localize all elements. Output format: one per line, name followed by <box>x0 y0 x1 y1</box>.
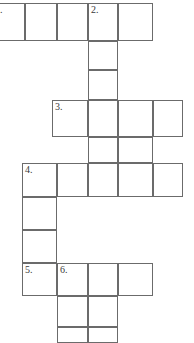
crossword-cell-r4c4[interactable] <box>88 100 118 137</box>
clue-number-1: 1. <box>0 4 3 15</box>
crossword-cell-r1c2[interactable] <box>25 3 57 41</box>
crossword-cell-r1c4[interactable]: 2. <box>88 3 118 41</box>
crossword-cell-r10c3[interactable] <box>57 296 88 327</box>
crossword-cell-r6c6[interactable] <box>153 163 183 197</box>
crossword-cell-r9c2[interactable]: 5. <box>22 263 57 296</box>
crossword-cell-r9c5[interactable] <box>118 263 153 296</box>
crossword-cell-r11c3[interactable] <box>57 327 88 343</box>
crossword-cell-r5c5[interactable] <box>118 137 153 163</box>
crossword-cell-r11c4[interactable] <box>88 327 118 343</box>
crossword-cell-r9c4[interactable] <box>88 263 118 296</box>
crossword-cell-r2c4[interactable] <box>88 41 118 70</box>
clue-number-4: 4. <box>25 164 33 175</box>
crossword-cell-r6c4[interactable] <box>88 163 118 197</box>
clue-number-5: 5. <box>25 264 33 275</box>
crossword-cell-r1c5[interactable] <box>118 3 153 41</box>
clue-number-3: 3. <box>55 101 63 112</box>
crossword-cell-r1c1[interactable]: 1. <box>0 3 25 41</box>
crossword-cell-r3c4[interactable] <box>88 70 118 100</box>
crossword-cell-r1c3[interactable] <box>57 3 88 41</box>
crossword-cell-r10c4[interactable] <box>88 296 118 327</box>
crossword-cell-r8c2[interactable] <box>22 230 57 263</box>
crossword-cell-r6c2[interactable]: 4. <box>22 163 57 197</box>
clue-number-2: 2. <box>91 4 99 15</box>
crossword-cell-r6c5[interactable] <box>118 163 153 197</box>
crossword-cell-r4c3[interactable]: 3. <box>52 100 88 137</box>
crossword-cell-r5c4[interactable] <box>88 137 118 163</box>
crossword-cell-r6c3[interactable] <box>57 163 88 197</box>
crossword-cell-r4c6[interactable] <box>153 100 183 137</box>
clue-number-6: 6. <box>60 264 68 275</box>
crossword-cell-r7c2[interactable] <box>22 197 57 230</box>
crossword-cell-r4c5[interactable] <box>118 100 153 137</box>
crossword-cell-r9c3[interactable]: 6. <box>57 263 88 296</box>
